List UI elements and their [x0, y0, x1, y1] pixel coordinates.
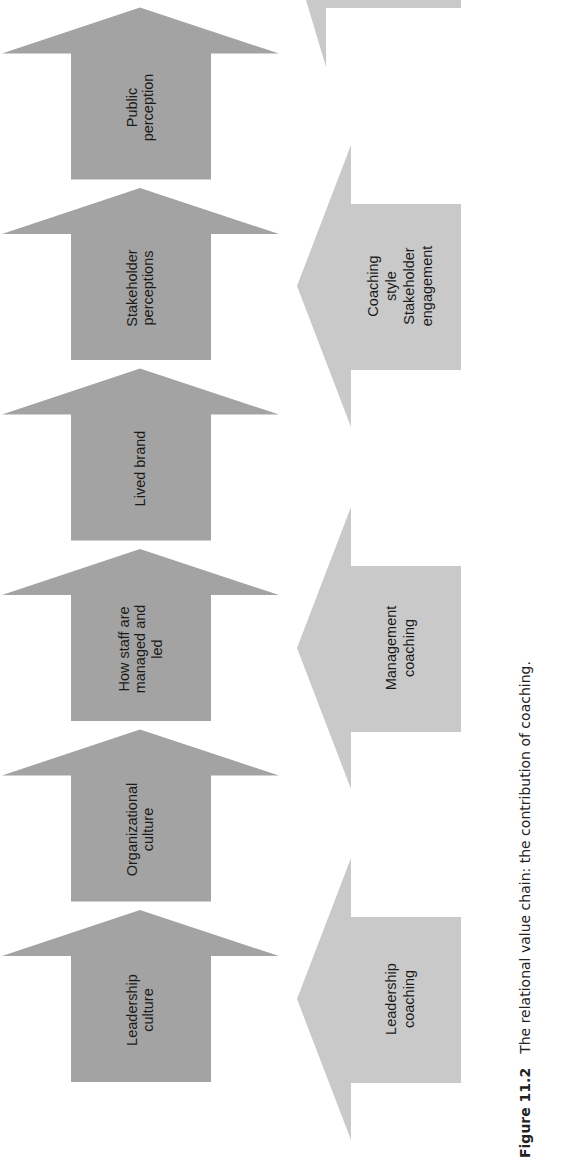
value-arrow-organizational-culture: Organizationalculture — [2, 730, 279, 902]
label-line: engagement — [419, 246, 435, 327]
label-line: culture — [140, 988, 156, 1032]
value-arrow-public-perception: Publicperception — [2, 8, 279, 180]
coaching-arrows: LeadershipcoachingManagementcoachingCoac… — [297, 145, 461, 1140]
label-line: Leadership — [383, 963, 399, 1035]
label-line: perception — [140, 74, 156, 142]
figure-caption: Figure 11.2The relational value chain: t… — [517, 661, 533, 1158]
label-line: Stakeholder — [124, 249, 140, 327]
figure-label: Figure 11.2 — [517, 1068, 533, 1158]
label-line: coaching — [401, 619, 417, 677]
label-line: culture — [140, 808, 156, 852]
left-arrow-shape — [297, 507, 461, 789]
label-line: Stakeholder — [401, 247, 417, 325]
value-chain-arrows: LeadershipcultureOrganizationalcultureHo… — [2, 8, 279, 1083]
label-line: Leadership — [124, 974, 140, 1046]
coaching-arrow-leadership-coaching: Leadershipcoaching — [297, 858, 461, 1140]
relational-value-chain-diagram: LeadershipcultureOrganizationalcultureHo… — [0, 0, 562, 1174]
figure-caption-text: The relational value chain: the contribu… — [517, 661, 533, 1055]
value-arrow-stakeholder-perceptions: Stakeholderperceptions — [2, 188, 279, 360]
label-line: Public — [124, 88, 140, 128]
value-arrow-label: Stakeholderperceptions — [124, 249, 157, 327]
label-line: perceptions — [140, 251, 156, 326]
coaching-arrow-coaching-style-stakeholder-engagement: CoachingstyleStakeholderengagement — [297, 145, 461, 427]
label-line: led — [149, 639, 165, 658]
value-arrow-how-staff-managed: How staff aremanaged andled — [2, 549, 279, 721]
label-line: How staff are — [116, 606, 132, 691]
label-line: Lived brand — [132, 431, 148, 507]
label-line: style — [383, 271, 399, 301]
label-line: managed and — [132, 605, 148, 694]
label-line: Organizational — [124, 783, 140, 877]
value-arrow-leadership-culture: Leadershipculture — [2, 910, 279, 1082]
coaching-arrow-management-coaching: Managementcoaching — [297, 507, 461, 789]
label-line: Coaching — [365, 255, 381, 316]
value-arrow-label: Lived brand — [132, 431, 148, 507]
value-arrow-lived-brand: Lived brand — [2, 369, 279, 541]
left-arrow-shape — [297, 858, 461, 1140]
label-line: coaching — [401, 970, 417, 1028]
label-line: Management — [383, 606, 399, 691]
cropped-coaching-arrow-top — [303, 0, 461, 67]
